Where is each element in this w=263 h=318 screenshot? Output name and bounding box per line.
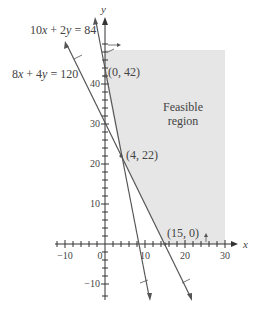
region-label-1: Feasible	[163, 100, 203, 114]
label-line2: 8x + 4y = 120	[12, 67, 78, 81]
region-label-2: region	[168, 114, 199, 128]
x-axis-label: x	[242, 238, 248, 250]
x-tick-20: 20	[180, 250, 190, 261]
label-line1: 10x + 2y = 84	[30, 23, 96, 37]
y-tick-30: 30	[90, 118, 100, 129]
chart: 10x + 2y = 84 8x + 4y = 120 Feasible reg…	[0, 0, 263, 318]
x-tick-10: 10	[140, 250, 150, 261]
feasible-region	[105, 50, 225, 244]
y-tick-neg10: −10	[84, 278, 100, 289]
point-label-4-22: (4, 22)	[126, 148, 158, 162]
y-axis-label: y	[100, 3, 106, 15]
y-tick-20: 20	[90, 158, 100, 169]
point-label-0-42: (0, 42)	[108, 65, 140, 79]
y-tick-10: 10	[90, 198, 100, 209]
x-tick-0: 0	[98, 250, 103, 261]
point-label-15-0: (15, 0)	[167, 226, 199, 240]
x-tick-neg10: −10	[57, 250, 73, 261]
x-tick-30: 30	[220, 250, 230, 261]
y-tick-40: 40	[90, 78, 100, 89]
